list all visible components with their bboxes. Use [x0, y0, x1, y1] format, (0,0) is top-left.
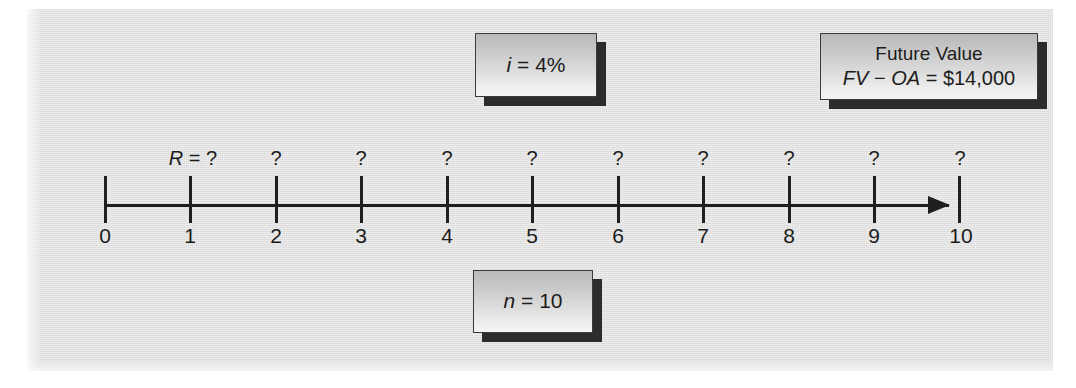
timeline-period-label: 9: [844, 224, 904, 248]
future-value-operator-equals: =: [920, 67, 943, 89]
timeline-period-label: 4: [417, 224, 477, 248]
periods-operator: =: [515, 289, 539, 312]
timeline-tick: [360, 176, 363, 223]
timeline-period-label: 2: [246, 224, 306, 248]
cash-flow-label: ?: [900, 147, 1020, 170]
timeline-tick: [275, 176, 278, 223]
timeline-tick: [617, 176, 620, 223]
timeline-period-label: 7: [673, 224, 733, 248]
timeline-period-label: 8: [759, 224, 819, 248]
periods-symbol: n: [504, 289, 516, 312]
timeline-axis-line: [104, 204, 949, 207]
timeline-tick: [702, 176, 705, 223]
timeline-period-label: 1: [160, 224, 220, 248]
timeline-period-label: 5: [502, 224, 562, 248]
interest-value: 4%: [535, 53, 565, 76]
timeline-arrow-head-icon: [928, 196, 950, 214]
future-value-formula: FV − OA = $14,000: [843, 67, 1015, 91]
timeline-period-label: 6: [588, 224, 648, 248]
callout-future-value: Future Value FV − OA = $14,000: [820, 33, 1038, 100]
rent-symbol: R: [169, 147, 183, 169]
timeline-tick: [189, 176, 192, 223]
timeline-period-label: 3: [331, 224, 391, 248]
future-value-operator-minus: −: [868, 67, 891, 89]
timeline-tick: [788, 176, 791, 223]
callout-number-of-periods: n = 10: [473, 270, 593, 333]
future-value-heading: Future Value: [875, 43, 982, 65]
future-value-amount: $14,000: [943, 67, 1015, 89]
timeline-period-label: 0: [75, 224, 135, 248]
timeline-tick: [446, 176, 449, 223]
future-value-symbol-oa: OA: [891, 67, 920, 89]
rent-operator: =: [183, 147, 206, 169]
periods-value: 10: [539, 289, 562, 312]
timeline-period-label: 10: [931, 224, 991, 248]
timeline-tick: [958, 176, 961, 223]
interest-operator: =: [511, 53, 535, 76]
interest-rate-expression: i = 4%: [507, 53, 566, 78]
timeline-tick: [873, 176, 876, 223]
timeline-tick: [104, 176, 107, 223]
figure-root: 0 1 2 3 4 5 6 7 8 9 10 R = ? ? ? ? ? ? ?…: [0, 0, 1076, 388]
timeline-tick: [531, 176, 534, 223]
future-value-symbol-fv: FV: [843, 67, 869, 89]
periods-expression: n = 10: [504, 289, 563, 314]
callout-interest-rate: i = 4%: [475, 33, 597, 97]
